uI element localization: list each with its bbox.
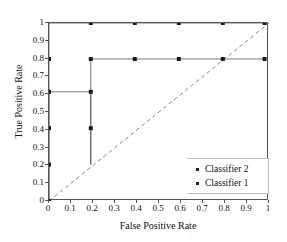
y-tick-mark	[45, 93, 48, 94]
legend-label: Classifier 1	[205, 178, 249, 188]
legend-item-classifier-1[interactable]: Classifier 1	[189, 176, 266, 190]
y-tick-mark	[45, 75, 48, 76]
y-tick-mark	[45, 164, 48, 165]
y-tick-mark	[45, 182, 48, 183]
x-tick-mark	[48, 200, 49, 203]
roc-chart-figure: Classifier 2 Classifier 1 1 0.9 0.8 0.7 …	[0, 0, 287, 242]
legend-marker-icon	[196, 182, 199, 185]
x-tick-label: 0.5	[147, 204, 169, 213]
x-tick-mark	[246, 200, 247, 203]
x-tick-mark	[158, 200, 159, 203]
x-tick-label: 0.9	[235, 204, 257, 213]
y-tick-mark	[45, 40, 48, 41]
y-axis-title: True Positive Rate	[13, 37, 24, 167]
plot-area: Classifier 2 Classifier 1	[48, 22, 268, 200]
x-tick-label: 0.3	[103, 204, 125, 213]
y-tick-label: 0.9	[22, 36, 44, 45]
legend-marker-icon	[196, 168, 199, 171]
y-tick-label: 0.3	[22, 143, 44, 152]
x-axis-title: False Positive Rate	[48, 220, 268, 231]
y-tick-mark	[45, 129, 48, 130]
x-tick-label: 0.8	[213, 204, 235, 213]
x-tick-label: 0.2	[81, 204, 103, 213]
x-tick-mark	[70, 200, 71, 203]
y-tick-label: 0.8	[22, 54, 44, 63]
y-tick-mark	[45, 22, 48, 23]
y-tick-label: 0.4	[22, 125, 44, 134]
y-tick-mark	[45, 111, 48, 112]
x-tick-mark	[92, 200, 93, 203]
x-tick-mark	[224, 200, 225, 203]
x-tick-label: 0.7	[191, 204, 213, 213]
x-tick-label: 0.4	[125, 204, 147, 213]
y-tick-label: 0.5	[22, 107, 44, 116]
x-tick-mark	[136, 200, 137, 203]
x-tick-mark	[114, 200, 115, 203]
x-tick-mark	[202, 200, 203, 203]
y-tick-mark	[45, 147, 48, 148]
y-tick-label: 0.2	[22, 160, 44, 169]
x-tick-label: 0.1	[59, 204, 81, 213]
y-tick-label: 0.7	[22, 71, 44, 80]
y-tick-label: 0.6	[22, 89, 44, 98]
legend: Classifier 2 Classifier 1	[187, 158, 269, 194]
x-tick-label: 0.6	[169, 204, 191, 213]
legend-item-classifier-2[interactable]: Classifier 2	[189, 162, 266, 176]
x-tick-mark	[268, 200, 269, 203]
x-tick-label: 1	[257, 204, 279, 213]
legend-label: Classifier 2	[205, 164, 249, 174]
y-tick-label: 1	[22, 18, 44, 27]
x-tick-label: 0	[37, 204, 59, 213]
x-tick-mark	[180, 200, 181, 203]
y-tick-label: 0.1	[22, 178, 44, 187]
y-tick-mark	[45, 58, 48, 59]
